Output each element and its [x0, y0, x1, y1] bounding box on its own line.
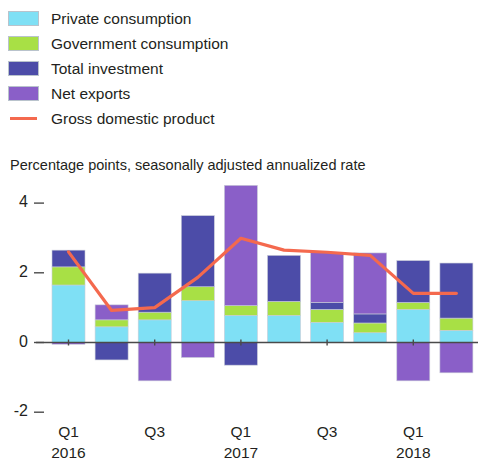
bar-segment	[440, 263, 473, 318]
x-axis-quarter-label: Q3	[125, 423, 185, 441]
bar-segment	[268, 301, 301, 315]
bar-segment	[95, 343, 128, 360]
x-axis-year-label: 2016	[39, 444, 99, 462]
bar-segment	[52, 285, 85, 343]
bar-segment	[138, 343, 171, 381]
bar-segment	[181, 287, 214, 301]
bar-segment	[354, 323, 387, 333]
bar-segment	[224, 343, 257, 366]
x-axis-quarter-label: Q1	[211, 423, 271, 441]
bar-segment	[138, 312, 171, 320]
bar-segment	[440, 343, 473, 373]
y-axis-label: 2	[2, 264, 28, 280]
bar-segment	[397, 309, 430, 342]
x-axis-year-label: 2018	[383, 444, 443, 462]
bar-segment	[311, 253, 344, 303]
y-axis-label: 4	[2, 194, 28, 210]
x-axis-quarter-label: Q3	[297, 423, 357, 441]
x-axis-year-label: 2017	[211, 444, 271, 462]
chart-svg	[0, 0, 485, 468]
chart-plot-area: -2024Q12016Q3Q12017Q3Q12018	[0, 0, 485, 468]
bar-segment	[95, 327, 128, 343]
bar-segment	[224, 185, 257, 305]
y-axis-ticks	[34, 203, 44, 412]
bar-segment	[224, 306, 257, 316]
bar-segment	[354, 253, 387, 314]
bar-segment	[95, 320, 128, 327]
bar-segment	[268, 255, 301, 301]
bar-segment	[440, 330, 473, 342]
bar-segment	[311, 302, 344, 309]
bar-segment	[181, 301, 214, 343]
bar-segment	[181, 343, 214, 358]
bar-segment	[397, 302, 430, 309]
bar-segment	[440, 318, 473, 330]
bar-segment	[95, 305, 128, 320]
bar-segment	[224, 315, 257, 342]
bar-segment	[311, 309, 344, 322]
bar-segment	[138, 320, 171, 343]
bar-segment	[354, 314, 387, 323]
y-axis-label: 0	[2, 334, 28, 350]
bar-segment	[397, 343, 430, 381]
bar-group	[52, 185, 473, 381]
bar-segment	[311, 322, 344, 342]
y-axis-label: -2	[2, 403, 28, 419]
bar-segment	[354, 333, 387, 343]
x-axis-quarter-label: Q1	[39, 423, 99, 441]
bar-segment	[268, 315, 301, 342]
x-axis-quarter-label: Q1	[383, 423, 443, 441]
